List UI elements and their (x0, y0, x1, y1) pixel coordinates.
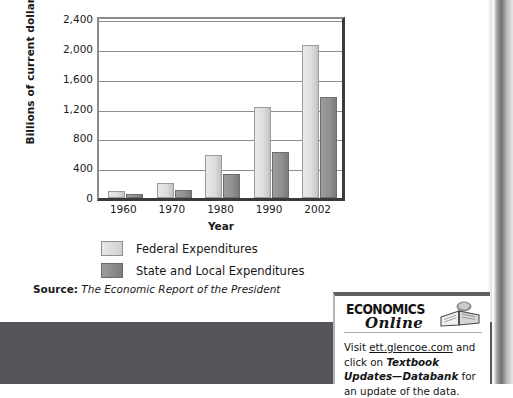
bar-group (148, 19, 197, 198)
online-script-wordmark: Online (365, 314, 423, 332)
y-tick-label: 0 (41, 192, 93, 204)
bar-state-local (272, 152, 289, 198)
economics-online-header: ECONOMICS Online (344, 301, 482, 333)
x-axis-title: Year (97, 220, 345, 232)
bar-chart-figure: Billions of current dollars 04008001,200… (0, 0, 360, 310)
bar-federal (157, 183, 174, 198)
source-title: The Economic Report of the President (81, 283, 280, 295)
y-tick-label: 400 (41, 162, 93, 174)
y-tick-label: 800 (41, 132, 93, 144)
glencoe-link[interactable]: ett.glencoe.com (369, 341, 453, 353)
x-axis-tick-labels: 19601970198019902002 (97, 203, 345, 219)
eo-text-prefix: Visit (344, 341, 369, 353)
bar-group (293, 19, 342, 198)
x-tick-label: 1970 (149, 203, 195, 215)
legend-swatch-state-local (101, 263, 123, 278)
y-axis-tick-labels: 04008001,2001,6002,0002,400 (37, 17, 93, 201)
y-tick-label: 1,200 (41, 103, 93, 115)
page-right-gutter (492, 0, 513, 384)
y-axis-title: Billions of current dollars (24, 0, 36, 148)
y-tick-label: 1,600 (41, 73, 93, 85)
bar-state-local (175, 190, 192, 198)
y-tick-label: 2,400 (41, 13, 93, 25)
bar-group (99, 19, 148, 198)
bar-group (245, 19, 294, 198)
x-tick-label: 1960 (100, 203, 146, 215)
bars-layer (99, 19, 342, 198)
legend-swatch-federal (101, 241, 123, 256)
bar-state-local (126, 194, 143, 198)
bar-state-local (320, 97, 337, 198)
x-tick-label: 2002 (295, 203, 341, 215)
x-tick-label: 1980 (198, 203, 244, 215)
economics-online-divider (344, 332, 482, 333)
bar-federal (254, 107, 271, 198)
y-tick-label: 2,000 (41, 43, 93, 55)
legend-label-state-local: State and Local Expenditures (136, 264, 304, 278)
bar-federal (205, 155, 222, 198)
legend-item-federal: Federal Expenditures (101, 239, 304, 258)
bar-group (196, 19, 245, 198)
legend-label-federal: Federal Expenditures (136, 242, 258, 256)
economics-online-box: ECONOMICS Online Visit ett.glencoe.com a (333, 292, 490, 384)
plot-area-wrapper (97, 17, 345, 201)
source-note: Source: The Economic Report of the Presi… (33, 283, 280, 295)
open-book-icon (439, 301, 481, 331)
bar-federal (302, 45, 319, 198)
economics-online-body: Visit ett.glencoe.com and click on Textb… (344, 340, 482, 398)
x-tick-label: 1990 (246, 203, 292, 215)
chart-legend: Federal Expenditures State and Local Exp… (101, 239, 304, 283)
bar-federal (108, 191, 125, 198)
legend-item-state-local: State and Local Expenditures (101, 261, 304, 280)
source-label: Source: (33, 283, 78, 295)
bar-state-local (223, 174, 240, 198)
